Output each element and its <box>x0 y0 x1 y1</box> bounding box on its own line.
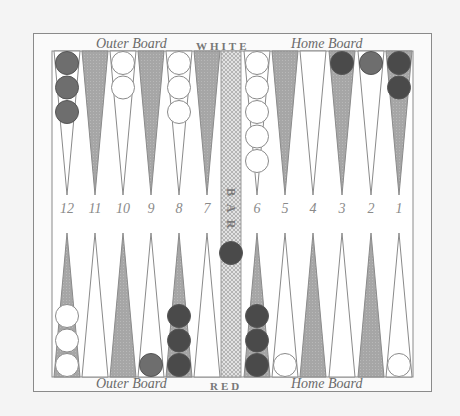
point-number-10: 10 <box>109 201 137 217</box>
point-number-7: 7 <box>193 201 221 217</box>
white-checker[interactable] <box>56 329 79 352</box>
point-number-5: 5 <box>271 201 299 217</box>
white-checker[interactable] <box>246 150 269 173</box>
bar-label-letter: R <box>224 220 238 229</box>
bottom-outer-board-label: Outer Board <box>96 376 167 392</box>
white-checker[interactable] <box>246 101 269 124</box>
white-checker[interactable] <box>112 52 135 75</box>
white-checker[interactable] <box>168 76 191 99</box>
top-outer-board-label: Outer Board <box>96 36 167 52</box>
top-player-label: WHITE <box>196 38 250 54</box>
red-checker[interactable] <box>56 101 79 124</box>
top-home-board-label: Home Board <box>291 36 362 52</box>
point-number-8: 8 <box>165 201 193 217</box>
white-checker[interactable] <box>56 305 79 328</box>
white-checker[interactable] <box>168 101 191 124</box>
dark-checker[interactable] <box>246 354 269 377</box>
white-checker[interactable] <box>246 76 269 99</box>
point-number-9: 9 <box>137 201 165 217</box>
dark-checker[interactable] <box>246 329 269 352</box>
point-number-11: 11 <box>81 201 109 217</box>
red-checker[interactable] <box>56 52 79 75</box>
point-number-2: 2 <box>357 201 385 217</box>
red-checker[interactable] <box>360 52 383 75</box>
dark-checker[interactable] <box>388 76 411 99</box>
point-number-12: 12 <box>53 201 81 217</box>
dark-checker[interactable] <box>168 354 191 377</box>
dark-checker[interactable] <box>331 52 354 75</box>
white-checker[interactable] <box>246 125 269 148</box>
white-checker[interactable] <box>112 76 135 99</box>
white-checker[interactable] <box>56 354 79 377</box>
point-number-4: 4 <box>299 201 327 217</box>
dark-checker[interactable] <box>388 52 411 75</box>
dark-checker[interactable] <box>246 305 269 328</box>
red-checker[interactable] <box>56 76 79 99</box>
point-number-3: 3 <box>328 201 356 217</box>
red-checker[interactable] <box>140 354 163 377</box>
bottom-home-board-label: Home Board <box>291 376 362 392</box>
bar-label-letter: A <box>224 204 238 213</box>
point-number-6: 6 <box>243 201 271 217</box>
bar-dark-checker[interactable] <box>220 242 243 265</box>
bottom-player-label: RED <box>210 378 242 394</box>
white-checker[interactable] <box>168 52 191 75</box>
white-checker[interactable] <box>274 354 297 377</box>
white-checker[interactable] <box>388 354 411 377</box>
bar-label-letter: B <box>224 188 238 196</box>
bar[interactable] <box>221 51 241 377</box>
dark-checker[interactable] <box>168 329 191 352</box>
white-checker[interactable] <box>246 52 269 75</box>
dark-checker[interactable] <box>168 305 191 328</box>
point-number-1: 1 <box>385 201 413 217</box>
